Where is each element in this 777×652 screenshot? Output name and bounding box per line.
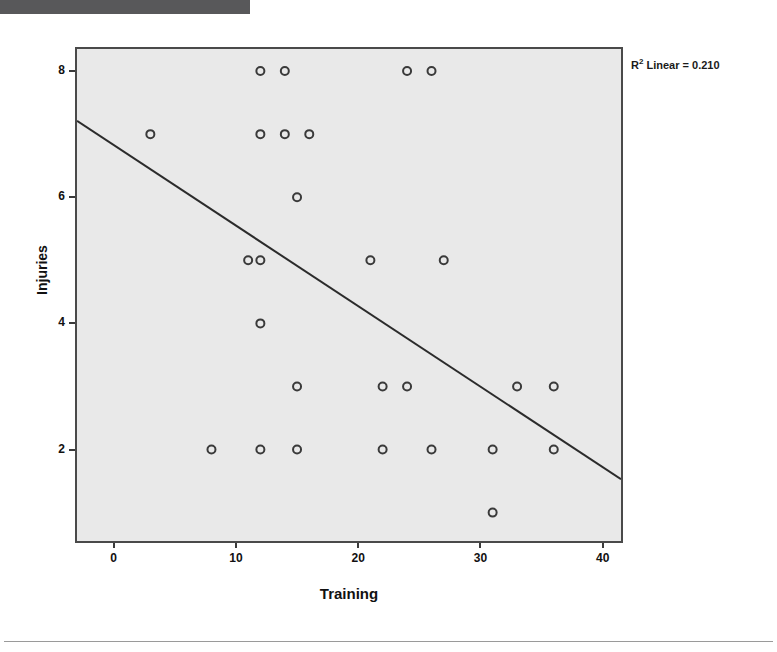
footer-divider (4, 641, 773, 642)
data-point (366, 256, 374, 264)
data-point (256, 67, 264, 75)
y-axis-tick-label: 6 (45, 189, 65, 203)
data-point (550, 382, 558, 390)
data-point (440, 256, 448, 264)
data-point (256, 446, 264, 454)
data-point (403, 382, 411, 390)
y-axis-tick-label: 4 (45, 315, 65, 329)
data-point (513, 382, 521, 390)
data-point (281, 67, 289, 75)
regression-line (77, 121, 621, 479)
data-point (379, 382, 387, 390)
x-axis-tick-label: 0 (94, 551, 134, 565)
data-point (256, 319, 264, 327)
x-axis-title: Training (75, 585, 623, 602)
x-axis-tick-label: 40 (583, 551, 623, 565)
x-axis-tick-label: 10 (216, 551, 256, 565)
y-axis-tick-label: 8 (45, 63, 65, 77)
data-point (244, 256, 252, 264)
scatterplot-figure: R2 Linear = 0.210 Injuries Training 0102… (0, 17, 777, 617)
page-header-strip (0, 0, 777, 17)
data-point (550, 446, 558, 454)
data-point (293, 382, 301, 390)
data-point (207, 446, 215, 454)
data-point (146, 130, 154, 138)
data-point (379, 446, 387, 454)
data-point (256, 256, 264, 264)
y-axis-title: Injuries (34, 210, 50, 330)
data-point (403, 67, 411, 75)
r-squared-prefix: R (631, 59, 639, 71)
data-point (489, 446, 497, 454)
data-point (428, 67, 436, 75)
r-squared-annotation: R2 Linear = 0.210 (631, 57, 720, 71)
header-badge (0, 0, 250, 14)
page-title (258, 0, 777, 14)
x-axis-tick-label: 20 (338, 551, 378, 565)
data-point (489, 509, 497, 517)
x-axis-tick-label: 30 (460, 551, 500, 565)
y-axis-tick-label: 2 (45, 442, 65, 456)
plot-area (75, 47, 623, 543)
data-point (293, 446, 301, 454)
r-squared-value: Linear = 0.210 (643, 59, 719, 71)
plot-canvas (77, 49, 621, 541)
data-point (428, 446, 436, 454)
data-point (305, 130, 313, 138)
data-point (293, 193, 301, 201)
data-point (281, 130, 289, 138)
data-point (256, 130, 264, 138)
